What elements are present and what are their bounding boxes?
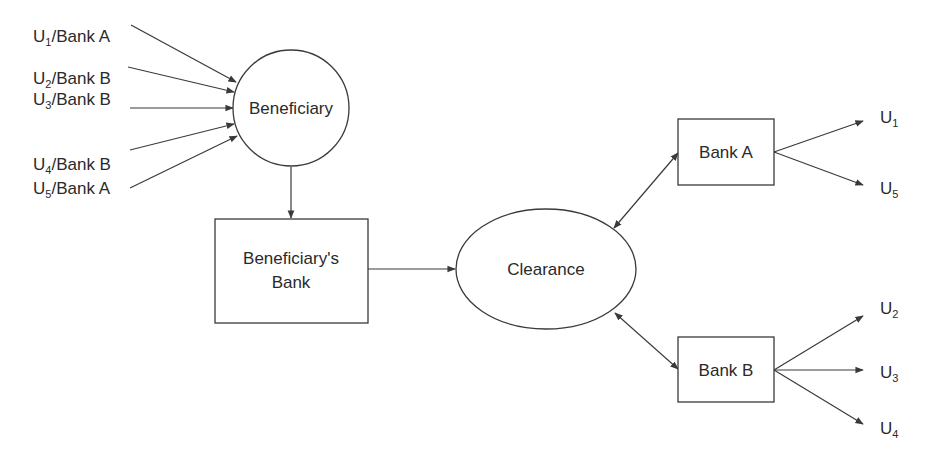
edge-bank-a-to-u1	[774, 121, 863, 152]
input-label-u2: U2/Bank B	[33, 69, 111, 90]
input-label-u5: U5/Bank A	[33, 179, 111, 200]
edge-u1-to-beneficiary	[131, 25, 236, 82]
beneficiary-bank-label-line1: Beneficiary's	[243, 249, 339, 268]
output-label-u3: U3	[880, 363, 898, 384]
output-label-u4: U4	[880, 419, 898, 440]
beneficiary-bank-label-line2: Bank	[272, 273, 311, 292]
clearance-label: Clearance	[507, 260, 585, 279]
bank-a-node: Bank A	[678, 119, 774, 185]
beneficiary-node: Beneficiary	[233, 50, 349, 166]
output-label-u1: U1	[880, 108, 898, 129]
clearance-node: Clearance	[456, 209, 636, 329]
edge-clearance-bank-a	[614, 153, 678, 228]
output-label-u2: U2	[880, 299, 898, 320]
bank-a-label: Bank A	[699, 143, 754, 162]
edge-u2-to-beneficiary	[128, 67, 234, 92]
output-label-u5: U5	[880, 179, 898, 200]
input-label-u3: U3/Bank B	[33, 90, 111, 111]
beneficiary-label: Beneficiary	[249, 99, 334, 118]
edge-bank-b-to-u2	[774, 316, 863, 370]
bank-b-label: Bank B	[699, 361, 754, 380]
beneficiary-bank-node: Beneficiary's Bank	[215, 219, 368, 323]
edge-clearance-bank-b	[615, 313, 678, 369]
input-label-u1: U1/Bank A	[33, 27, 111, 48]
edge-u5-to-beneficiary	[130, 136, 237, 188]
edge-bank-b-to-u4	[774, 370, 863, 424]
payment-flow-diagram: Beneficiary Beneficiary's Bank Clearance…	[0, 0, 935, 463]
edge-u4-to-beneficiary	[130, 124, 234, 150]
bank-b-node: Bank B	[678, 337, 774, 402]
edge-bank-a-to-u5	[774, 152, 863, 185]
input-label-u4: U4/Bank B	[33, 155, 111, 176]
